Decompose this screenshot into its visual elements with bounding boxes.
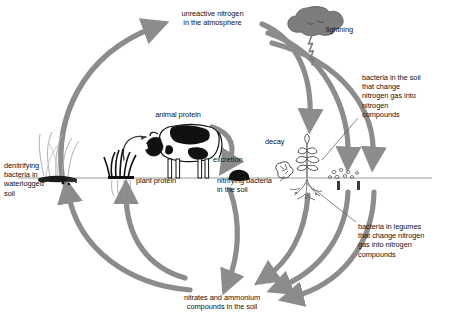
grass-icon — [104, 149, 136, 197]
label-excretion: excretion — [213, 155, 257, 164]
leader-line-soil-bacteria — [322, 118, 358, 160]
nitrogen-cycle-diagram: unreactive nitrogen in the atmosphere li… — [0, 0, 449, 318]
label-nitrates: nitrates and ammonium compounds in the s… — [156, 293, 288, 311]
label-decay: decay — [265, 137, 299, 146]
label-atmosphere: unreactive nitrogen in the atmosphere — [155, 9, 270, 27]
label-plant-protein: plant protein — [136, 176, 196, 185]
label-denitrifying-bacteria: denitrifying bacteria in waterlogged soi… — [4, 161, 64, 198]
label-animal-protein: animal protein — [140, 110, 216, 119]
label-lightning: lightning — [326, 25, 386, 34]
label-soil-bacteria: bacteria in the soil that change nitroge… — [362, 73, 448, 119]
label-nitrifying-bacteria: nitrifying bacteria in the soil — [217, 176, 289, 194]
label-legume-bacteria: bacteria in legumes that change nitrogen… — [358, 222, 449, 259]
cow-icon — [143, 125, 222, 178]
soil-marks-icon — [337, 181, 360, 190]
arrow-excretion-to-nitrates — [228, 190, 237, 282]
arrow-decay-to-nitrates — [266, 195, 308, 277]
arrow-nitrates-to-plant-protein — [126, 193, 185, 278]
soil-nodules-icon — [328, 169, 358, 179]
arrow-denitrifying-to-atmosphere — [61, 27, 155, 176]
